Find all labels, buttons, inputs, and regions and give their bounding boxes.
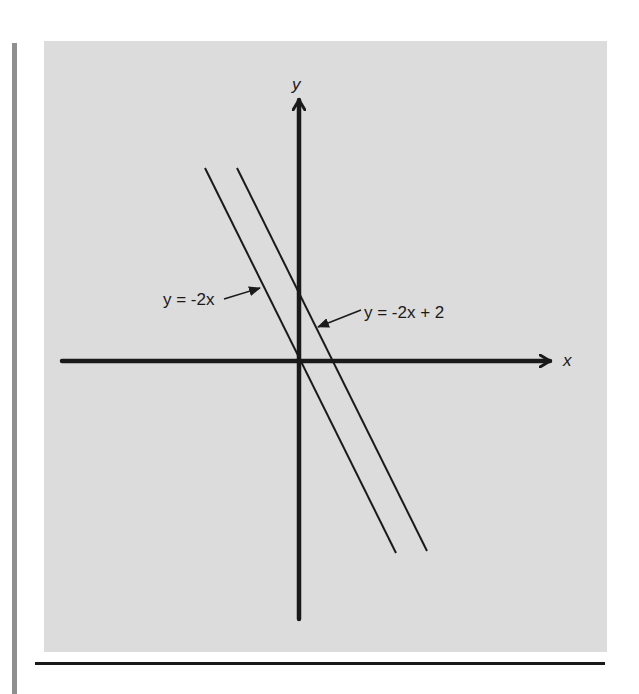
x-axis-label: x [562,351,572,370]
line-label-2: y = -2x + 2 [364,303,444,322]
annotation-arrow-1 [224,288,260,299]
line-label-1: y = -2x [163,290,215,309]
coordinate-plot: y x y = -2x y = -2x + 2 [0,0,639,694]
annotation-arrow-2 [318,310,361,327]
y-axis-label: y [291,75,302,94]
